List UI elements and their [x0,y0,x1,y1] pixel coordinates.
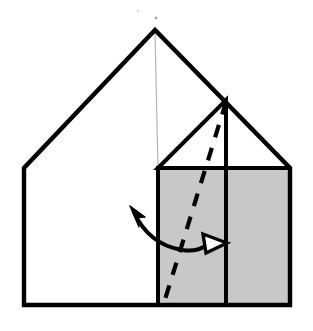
diagram-canvas: Origami fold step diagram Line drawing o… [0,0,313,331]
shaded-panel-right [226,168,290,305]
origami-diagram-figure: Origami fold step diagram Line drawing o… [0,0,313,331]
scan-speck-2 [155,17,158,20]
scan-speck-1 [137,10,139,12]
shaded-panel-left [158,168,226,305]
